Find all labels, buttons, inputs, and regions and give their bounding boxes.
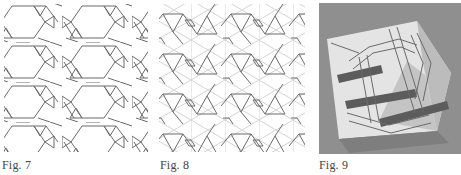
figure-7-pattern	[0, 0, 150, 155]
caption-fig-7: Fig. 7	[2, 158, 31, 173]
figure-8-pattern	[157, 0, 307, 155]
caption-fig-9: Fig. 9	[319, 158, 348, 173]
octahedron-photo	[319, 3, 461, 154]
figure-9-photo	[319, 3, 461, 154]
interlace-lattice-drawing	[0, 0, 150, 155]
caption-fig-8: Fig. 8	[160, 158, 189, 173]
interlace-grid-drawing	[157, 0, 307, 155]
